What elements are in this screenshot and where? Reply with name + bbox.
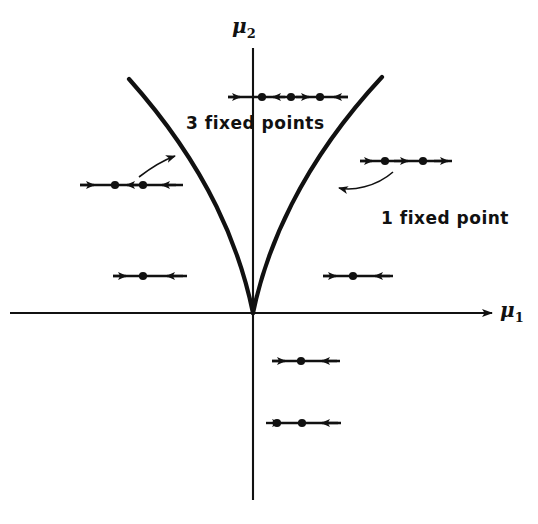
fixed-point-dot xyxy=(316,93,324,101)
phase-line-below-axis-upper xyxy=(272,357,340,365)
fixed-point-dot xyxy=(139,272,147,280)
phase-line-left-three xyxy=(80,181,183,189)
fixed-point-dot xyxy=(297,357,305,365)
cusp-bifurcation-figure: 3 fixed points 1 fixed point μ2 μ1 xyxy=(0,0,538,524)
mu2-axis-label: μ2 xyxy=(232,14,256,41)
phase-line-right-one-lower xyxy=(323,272,393,280)
phase-line-left-one xyxy=(113,272,187,280)
phase-line-top-three xyxy=(228,93,348,101)
fixed-point-dot xyxy=(258,93,266,101)
fixed-point-dot xyxy=(349,272,357,280)
figure-canvas xyxy=(0,0,538,524)
pointer-left-arrow xyxy=(139,156,175,177)
mu2-symbol: μ xyxy=(232,14,247,38)
fixed-point-dot xyxy=(298,419,306,427)
mu1-axis-label: μ1 xyxy=(500,298,524,325)
phase-line-right-one xyxy=(360,157,452,165)
mu1-subscript: 1 xyxy=(515,310,524,325)
fixed-point-dot xyxy=(287,93,295,101)
fixed-point-dot xyxy=(139,181,147,189)
region-label-three-fixed-points: 3 fixed points xyxy=(186,113,325,133)
fixed-point-dot xyxy=(381,157,389,165)
phase-line-below-axis-lower xyxy=(266,419,341,427)
mu1-symbol: μ xyxy=(500,298,515,322)
fixed-point-dot xyxy=(111,181,119,189)
pointer-right-arrow xyxy=(339,172,393,189)
fixed-point-dot xyxy=(419,157,427,165)
fixed-point-dot xyxy=(273,419,281,427)
mu2-subscript: 2 xyxy=(247,26,256,41)
region-label-one-fixed-point: 1 fixed point xyxy=(381,208,509,228)
